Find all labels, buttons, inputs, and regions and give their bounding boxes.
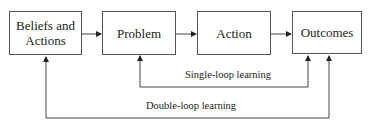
node-problem: Problem: [102, 11, 176, 55]
node-label: Action: [216, 26, 251, 41]
node-outcomes: Outcomes: [292, 11, 362, 54]
node-label: Outcomes: [301, 25, 354, 40]
node-action: Action: [197, 11, 271, 55]
node-beliefs-and-actions: Beliefs and Actions: [9, 11, 82, 55]
node-label: Beliefs and Actions: [16, 18, 76, 48]
single-loop-label: Single-loop learning: [185, 69, 271, 80]
double-loop-label: Double-loop learning: [146, 100, 236, 111]
node-label: Problem: [117, 26, 161, 41]
